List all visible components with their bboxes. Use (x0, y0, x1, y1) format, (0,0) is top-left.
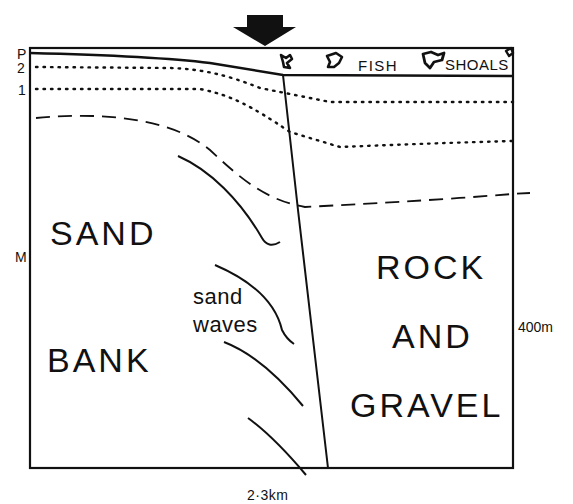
axis-label-1: 1 (18, 83, 26, 97)
region-label-sand-waves-2: waves (193, 314, 258, 336)
sand-wave-curve-3 (224, 342, 303, 406)
axis-label-2: 2 (17, 61, 25, 75)
sand-wave-curve-4 (248, 418, 306, 475)
axis-label-p: P (17, 47, 26, 61)
fish-shoal-icon (327, 53, 342, 67)
region-label-bank: BANK (47, 343, 152, 377)
region-label-sand: SAND (50, 216, 156, 250)
boundary-line (283, 75, 328, 468)
region-label-gravel: GRAVEL (350, 388, 503, 422)
sand-wave-curve-1 (178, 156, 280, 245)
fish-shoal-icon (423, 52, 444, 68)
region-label-and: AND (392, 319, 473, 353)
axis-label-m: M (15, 250, 27, 264)
dotted-layer-1 (36, 89, 513, 147)
fish-shoal-icon (281, 55, 292, 68)
shoals-label: SHOALS (445, 57, 509, 72)
region-label-sand-waves-1: sand (193, 286, 243, 308)
fish-label: FISH (358, 58, 398, 73)
depth-label: 400m (518, 320, 553, 334)
dashed-layer-m (36, 116, 530, 207)
fish-shoal-icon (506, 48, 513, 56)
distance-label: 2·3km (247, 488, 288, 502)
down-arrow-icon (233, 15, 296, 46)
region-label-rock: ROCK (376, 250, 486, 284)
seabed-line (30, 53, 513, 76)
dotted-layer-2 (36, 67, 513, 102)
cross-section-drawing (0, 0, 573, 504)
